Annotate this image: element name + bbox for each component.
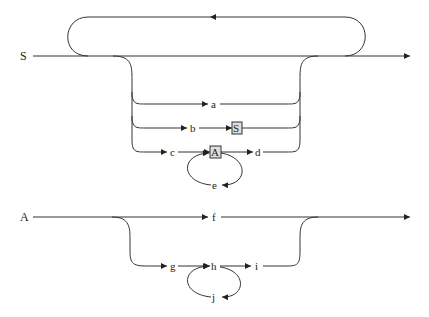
s-branch-b-in: [132, 116, 145, 128]
s-branch-a-out: [287, 92, 300, 104]
s-loop-left: [68, 17, 210, 56]
a-branch-right: [263, 217, 318, 266]
rule-s-label: S: [20, 49, 27, 63]
terminal-a: a: [211, 98, 216, 110]
terminal-e: e: [212, 179, 217, 191]
s-branch-b-out: [287, 116, 300, 128]
terminal-h: h: [211, 260, 217, 272]
rule-a-label: A: [20, 210, 29, 224]
nonterminal-a: A: [211, 146, 219, 158]
s-branch-a-in: [132, 92, 145, 104]
loop-e-left: [187, 153, 211, 185]
rule-s: S a b S c A d: [20, 17, 410, 191]
a-branch-left: [112, 217, 167, 266]
terminal-i: i: [255, 260, 258, 272]
rule-a: A f g h i j: [20, 210, 410, 303]
nonterminal-s: S: [233, 122, 239, 134]
s-loop-right: [345, 17, 365, 56]
terminal-b: b: [190, 122, 196, 134]
loop-j-right: [220, 267, 241, 297]
loop-j-left: [187, 266, 211, 297]
terminal-f: f: [212, 211, 216, 223]
terminal-d: d: [255, 146, 261, 158]
loop-e-right: [221, 153, 242, 185]
terminal-g: g: [170, 260, 176, 272]
terminal-j: j: [211, 291, 215, 303]
terminal-c: c: [170, 146, 175, 158]
syntax-diagram: S a b S c A d: [0, 0, 429, 317]
diagram-svg: S a b S c A d: [0, 0, 429, 317]
